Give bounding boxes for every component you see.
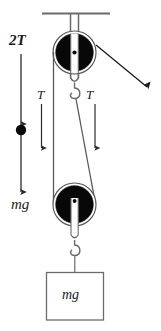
upper-hook-curve [70,88,79,99]
upper-pulley-axle [72,50,76,54]
pulley-diagram: 2T T T mg mg [0,0,161,331]
label-tension-right: T [86,88,93,101]
lower-pulley-axle [73,199,77,203]
center-of-mass-dot [16,125,26,135]
label-weight-force: mg [11,197,29,212]
label-tension-left: T [37,88,44,101]
upper-pulley-wheel [53,31,96,78]
diagram-canvas [0,0,161,331]
strap-clevis [71,78,79,81]
label-net-tension: 2T [9,33,26,48]
lower-strap-overlay [71,198,78,235]
applied-force-arrow [96,45,147,87]
lower-hook-curve [71,245,80,256]
lower-strap-clevis [71,235,78,238]
pull-arrow-line [96,45,147,87]
tension-arrows [42,104,96,148]
rope-system [54,52,96,204]
lower-pulley-wheel [53,183,96,238]
label-block-weight: mg [62,288,79,302]
force-axis [16,54,26,192]
upper-hook [70,83,79,99]
lower-hook [71,240,80,272]
